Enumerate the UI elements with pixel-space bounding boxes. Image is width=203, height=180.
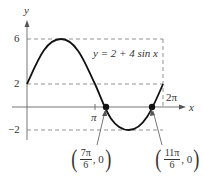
- fraction: 7π 6: [80, 148, 92, 170]
- paren-open: (: [155, 146, 161, 172]
- tick-label-2pi: 2π: [166, 92, 177, 103]
- y-axis-label: y: [24, 5, 29, 16]
- axes: [12, 24, 182, 140]
- tick-label-neg2: −2: [8, 124, 20, 135]
- y-axis-arrow-icon: [25, 20, 30, 27]
- zero-point-11pi-6: [149, 104, 155, 110]
- fraction-numerator: 11π: [164, 148, 181, 160]
- paren-close: ): [194, 146, 200, 172]
- equation-label: y = 2 + 4 sin x: [93, 48, 158, 59]
- annotation-7pi-6: ( 7π 6 , 0 ): [70, 146, 112, 172]
- paren-close: ): [105, 146, 111, 172]
- tick-label-6: 6: [14, 33, 20, 44]
- fraction-numerator: 7π: [80, 148, 92, 160]
- fraction-denominator: 6: [170, 160, 175, 171]
- paren-open: (: [71, 146, 77, 172]
- fraction: 11π 6: [164, 148, 181, 170]
- x-axis-label: x: [189, 102, 194, 113]
- annotation-rest: , 0: [181, 153, 192, 165]
- annotation-11pi-6: ( 11π 6 , 0 ): [154, 146, 201, 172]
- x-axis-arrow-icon: [179, 105, 186, 110]
- fraction-denominator: 6: [83, 160, 88, 171]
- annotation-rest: , 0: [93, 153, 104, 165]
- tick-label-pi: π: [91, 112, 97, 123]
- annotation-pointers: [97, 111, 162, 145]
- tick-label-2: 2: [14, 78, 20, 89]
